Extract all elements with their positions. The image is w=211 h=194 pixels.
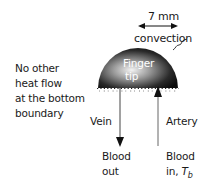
dimension-arrow: [138, 23, 178, 29]
blood-temperature-subscript: b: [188, 171, 193, 180]
blood-out-line2: out: [102, 165, 119, 178]
convection-label: convection: [134, 32, 192, 45]
bottom-boundary: [97, 89, 179, 92]
boundary-note-line1: No other: [15, 62, 59, 75]
blood-in-text: in,: [166, 165, 181, 177]
vein-arrow: [116, 88, 124, 147]
finger-label-line1: Finger: [123, 57, 154, 70]
vein-label: Vein: [90, 115, 112, 128]
blood-in-line1: Blood: [166, 150, 195, 163]
artery-label: Artery: [166, 115, 197, 128]
boundary-note-line2: heat flow: [15, 77, 62, 90]
blood-in-line2: in, Tb: [166, 165, 193, 182]
boundary-note-line3: at the bottom: [15, 92, 85, 105]
boundary-note-line4: boundary: [15, 107, 63, 120]
blood-out-line1: Blood: [102, 150, 131, 163]
finger-label-line2: tip: [125, 70, 138, 83]
dimension-label: 7 mm: [148, 10, 179, 23]
artery-arrow: [154, 86, 162, 146]
